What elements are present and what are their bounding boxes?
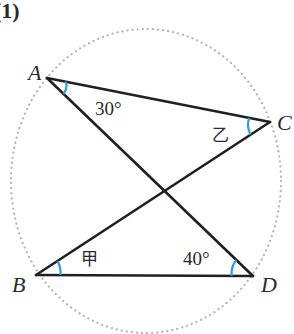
angle-label-D: 40°	[183, 248, 210, 269]
angle-label-A: 30°	[95, 98, 122, 119]
segment-BD	[36, 275, 253, 276]
angle-label-C: 乙	[212, 125, 229, 145]
angle-arc-D	[231, 260, 236, 276]
figure-label: (1)	[0, 0, 20, 23]
angle-arc-C	[248, 118, 251, 135]
dotted-circle	[11, 29, 281, 333]
angle-label-B: 甲	[81, 249, 98, 269]
point-label-C: C	[277, 110, 292, 135]
point-label-D: D	[260, 272, 277, 297]
point-label-B: B	[12, 272, 25, 297]
segment-CB	[36, 122, 270, 275]
geometry-figure: (1) A C B D 30° 乙 甲 40°	[0, 0, 294, 334]
angle-arc-B	[58, 261, 61, 275]
angle-arc-A	[64, 82, 67, 94]
segment-AC	[47, 78, 270, 122]
point-label-A: A	[26, 60, 42, 85]
